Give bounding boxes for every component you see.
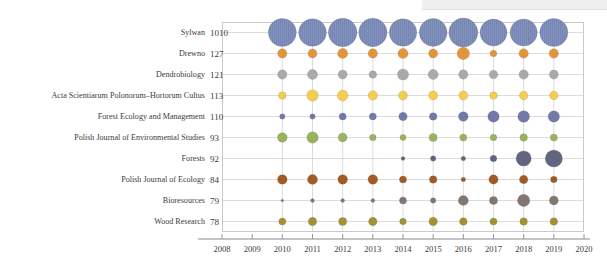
bubble-chart: SylwanDrewnoDendrobiologyActa Scientiaru…: [0, 0, 607, 268]
category-total: 1010: [207, 28, 243, 38]
category-label: Drewno: [0, 49, 205, 59]
category-total: 121: [207, 70, 243, 80]
x-axis-tick-labels: 2008200920102011201220132014201520162017…: [0, 243, 607, 259]
x-tick-label: 2020: [564, 243, 604, 255]
category-total: 127: [207, 49, 243, 59]
category-total: 110: [207, 112, 243, 122]
category-axis-labels: SylwanDrewnoDendrobiologyActa Scientiaru…: [0, 22, 205, 232]
category-label: Acta Scientiarum Polonorum–Hortorum Cult…: [0, 91, 205, 101]
category-label: Forests: [0, 154, 205, 164]
category-total: 79: [207, 196, 243, 206]
category-label: Sylwan: [0, 28, 205, 38]
category-label: Dendrobiology: [0, 70, 205, 80]
category-label: Wood Research: [0, 217, 205, 227]
category-total: 113: [207, 91, 243, 101]
category-total: 78: [207, 217, 243, 227]
category-total: 92: [207, 154, 243, 164]
category-total: 93: [207, 133, 243, 143]
category-label: Polish Journal of Ecology: [0, 175, 205, 185]
category-label: Polish Journal of Environmental Studies: [0, 133, 205, 143]
category-label: Bioresources: [0, 196, 205, 206]
category-label: Forest Ecology and Management: [0, 112, 205, 122]
category-total-values: 10101271211131109392847978: [207, 22, 243, 232]
category-total: 84: [207, 175, 243, 185]
